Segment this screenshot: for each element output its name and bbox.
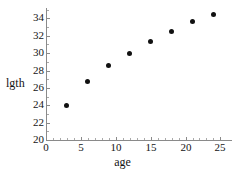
y-tick-label: 24 [33, 99, 44, 110]
scatter-plot-figure: 2022242628303234 0510152025 lgth age [0, 0, 245, 180]
y-tick-label: 30 [33, 47, 44, 58]
y-tick-label: 34 [33, 12, 44, 23]
y-tick-label: 32 [33, 30, 44, 41]
x-tick-label: 20 [176, 142, 196, 153]
y-tick-label: 28 [33, 65, 44, 76]
data-point [127, 51, 132, 56]
x-axis-line [46, 140, 232, 141]
plot-area [46, 8, 226, 140]
x-axis-title: age [0, 156, 245, 168]
x-tick-label: 5 [71, 142, 91, 153]
data-point [190, 19, 195, 24]
data-point [211, 12, 216, 17]
x-tick-label: 0 [36, 142, 56, 153]
x-tick-label: 15 [141, 142, 161, 153]
data-point [106, 63, 111, 68]
data-point [148, 39, 153, 44]
y-tick-label: 22 [33, 117, 44, 128]
x-tick-label: 10 [106, 142, 126, 153]
data-point [64, 103, 69, 108]
y-axis-title: lgth [6, 77, 25, 89]
x-tick-label: 25 [210, 142, 230, 153]
y-tick-label: 26 [33, 82, 44, 93]
data-point [169, 29, 174, 34]
data-point [85, 79, 90, 84]
